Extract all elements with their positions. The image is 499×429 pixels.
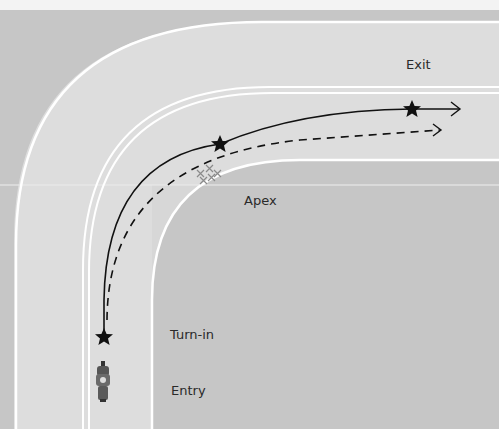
- motorcycle-icon: [96, 361, 110, 402]
- turn-in-label: Turn-in: [170, 327, 214, 342]
- exit-label: Exit: [406, 57, 431, 72]
- apex-label: Apex: [244, 193, 277, 208]
- entry-label: Entry: [171, 383, 206, 398]
- corner-diagram: Exit Apex Turn-in Entry: [0, 0, 499, 429]
